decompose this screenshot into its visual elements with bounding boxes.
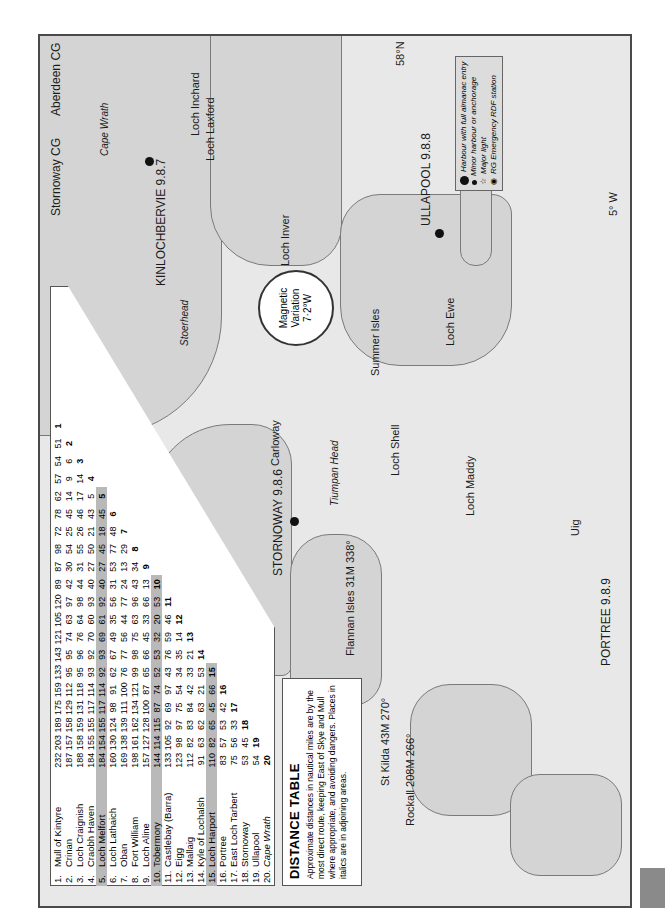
major-light-icon: ☆ bbox=[479, 178, 489, 185]
distance-cell: 55 bbox=[75, 540, 85, 558]
distance-cell: 114 bbox=[152, 734, 162, 752]
diagonal-index: 15 bbox=[207, 663, 217, 681]
legend-item: Harbour with full almanac entry bbox=[459, 62, 469, 185]
distance-cell: 43 bbox=[163, 663, 173, 681]
distance-cell: 93 bbox=[97, 646, 107, 664]
distance-cell: 160 bbox=[108, 751, 118, 769]
distance-table: 1.Mull of Kintyre23220318917515913314312… bbox=[50, 286, 275, 886]
distance-cell: 98 bbox=[130, 646, 140, 664]
distance-cell: 56 bbox=[108, 593, 118, 611]
place-name: Fort William bbox=[129, 769, 140, 867]
table-row: 16.Portree8357534216 bbox=[217, 681, 228, 886]
row-number: 17. bbox=[228, 867, 239, 886]
place-lewis: Tiumpan Head bbox=[330, 440, 340, 506]
bearing-st-kilda: St Kilda 43M 270° bbox=[380, 698, 391, 786]
table-row: 4.Craobh Haven18415515511711493927060934… bbox=[85, 470, 96, 886]
row-number: 20. bbox=[261, 867, 272, 886]
distance-cell: 157 bbox=[141, 751, 151, 769]
distance-cell: 105 bbox=[163, 734, 173, 752]
diagonal-index: 12 bbox=[174, 611, 184, 629]
distance-cell: 83 bbox=[218, 751, 228, 769]
distance-cell: 60 bbox=[86, 611, 96, 629]
table-row: 5.Loch Melfort18415415511711492936961924… bbox=[96, 488, 107, 887]
distance-cell: 159 bbox=[53, 681, 63, 699]
place-summer-isles: Summer Isles bbox=[370, 309, 381, 376]
coastguard-aberdeen: Aberdeen CG bbox=[50, 43, 62, 116]
distance-cell: 70 bbox=[86, 628, 96, 646]
distance-cell: 33 bbox=[141, 611, 151, 629]
place-name: Mull of Kintyre bbox=[52, 769, 63, 867]
rdf-station-icon: ◉ bbox=[489, 178, 499, 185]
distance-cell: 91 bbox=[196, 751, 206, 769]
harbour-portree[interactable]: PORTREE 9.8.9 bbox=[600, 578, 612, 666]
distance-cell: 57 bbox=[218, 734, 228, 752]
place-name: Loch Craignish bbox=[74, 769, 85, 867]
distance-cell: 42 bbox=[218, 699, 228, 717]
distance-cell: 44 bbox=[75, 575, 85, 593]
distance-cell: 35 bbox=[174, 646, 184, 664]
distance-cell: 83 bbox=[185, 716, 195, 734]
harbour-kinlochbervie[interactable]: KINLOCHBERVIE 9.8.7 bbox=[155, 159, 167, 286]
diagonal-index: 17 bbox=[229, 699, 239, 717]
row-number: 14. bbox=[195, 867, 206, 886]
distance-cell: 27 bbox=[86, 558, 96, 576]
distance-cell: 92 bbox=[86, 646, 96, 664]
table-row: 11.Castlebay (Barra)13310592699743765946… bbox=[162, 593, 173, 886]
place-name: East Loch Tarbert bbox=[228, 769, 239, 867]
table-row: 17.East Loch Tarbert75563317 bbox=[228, 699, 239, 886]
distance-cell: 87 bbox=[152, 699, 162, 717]
row-number: 15. bbox=[206, 867, 217, 886]
distance-cell: 87 bbox=[141, 681, 151, 699]
distance-cell: 75 bbox=[130, 628, 140, 646]
distance-cell: 63 bbox=[64, 611, 74, 629]
harbour-kinlochbervie-icon bbox=[145, 157, 154, 166]
distance-cell: 18 bbox=[97, 523, 107, 541]
row-number: 1. bbox=[52, 867, 63, 886]
distance-cell: 66 bbox=[141, 646, 151, 664]
table-row: 20.Cape Wrath20 bbox=[261, 751, 272, 886]
distance-cell: 99 bbox=[130, 663, 140, 681]
distance-cell: 14 bbox=[174, 628, 184, 646]
distance-cell: 40 bbox=[97, 575, 107, 593]
distance-cell: 155 bbox=[86, 716, 96, 734]
distance-cell: 31 bbox=[108, 575, 118, 593]
coastguard-stornoway: Stornoway CG bbox=[50, 138, 62, 216]
distance-cell: 52 bbox=[152, 663, 162, 681]
magvar-line2: Variation bbox=[290, 289, 302, 328]
distance-cell: 53 bbox=[152, 646, 162, 664]
land-benbecula bbox=[510, 774, 622, 876]
distance-table-description: Approximate distances in nautical miles … bbox=[305, 685, 349, 879]
table-row: 15.Loch Harport1108265456615 bbox=[206, 663, 217, 886]
distance-cell: 78 bbox=[53, 505, 63, 523]
distance-cell: 48 bbox=[108, 523, 118, 541]
place-name: Loch Melfort bbox=[96, 769, 107, 867]
distance-cell: 133 bbox=[53, 663, 63, 681]
harbour-ullapool[interactable]: ULLAPOOL 9.8.8 bbox=[420, 133, 432, 226]
distance-cell: 62 bbox=[108, 663, 118, 681]
distance-cell: 45 bbox=[207, 699, 217, 717]
distance-cell: 32 bbox=[152, 628, 162, 646]
distance-cell: 77 bbox=[119, 593, 129, 611]
distance-cell: 232 bbox=[53, 751, 63, 769]
diagonal-index: 1 bbox=[53, 417, 63, 435]
distance-cell: 33 bbox=[229, 716, 239, 734]
diagonal-index: 19 bbox=[251, 734, 261, 752]
distance-cell: 189 bbox=[53, 716, 63, 734]
place-name: Crinan bbox=[63, 769, 74, 867]
diagonal-index: 8 bbox=[130, 540, 140, 558]
distance-cell: 129 bbox=[64, 699, 74, 717]
distance-cell: 72 bbox=[53, 523, 63, 541]
distance-cell: 187 bbox=[64, 751, 74, 769]
distance-cell: 154 bbox=[97, 734, 107, 752]
distance-cell: 105 bbox=[53, 611, 63, 629]
diagonal-index: 2 bbox=[64, 435, 74, 453]
distance-cell: 35 bbox=[108, 611, 118, 629]
distance-cell: 100 bbox=[119, 681, 129, 699]
table-row: 10.Tobermory1441141158774525332205310 bbox=[151, 575, 162, 886]
distance-cell: 82 bbox=[185, 734, 195, 752]
row-number: 3. bbox=[74, 867, 85, 886]
harbour-stornoway[interactable]: STORNOWAY 9.8.6 bbox=[272, 469, 284, 576]
distance-cell: 56 bbox=[119, 628, 129, 646]
distance-cell: 54 bbox=[53, 452, 63, 470]
row-number: 13. bbox=[184, 867, 195, 886]
